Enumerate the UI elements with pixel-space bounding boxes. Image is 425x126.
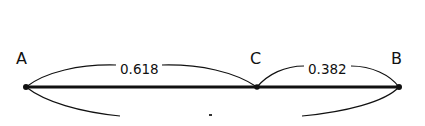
point-c-dot — [254, 84, 260, 90]
diagram-svg: A C B 0.618 0.382 — [0, 0, 425, 126]
point-b-dot — [396, 84, 402, 90]
point-a-dot — [23, 84, 29, 90]
ratio-label-cb: 0.382 — [308, 61, 347, 77]
arc-ab-lower — [26, 87, 399, 116]
point-a-label: A — [16, 49, 27, 68]
point-b-label: B — [391, 49, 402, 68]
ratio-label-ac: 0.618 — [120, 61, 159, 77]
golden-ratio-diagram: A C B 0.618 0.382 — [0, 0, 425, 126]
point-c-label: C — [250, 49, 261, 68]
cropped-label-fragment — [209, 114, 212, 116]
